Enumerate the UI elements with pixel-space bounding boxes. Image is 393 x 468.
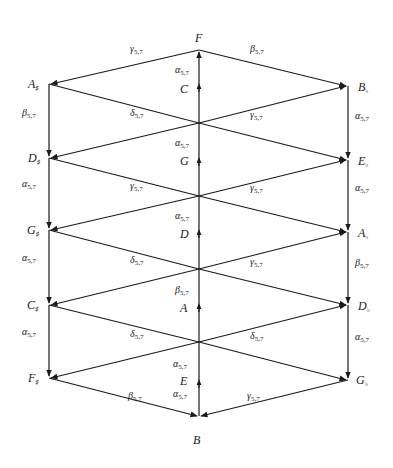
label-alpha-C-F: α5,7 <box>175 64 190 77</box>
label-alpha-Dsharp-Gsharp: α5,7 <box>22 178 37 191</box>
label-delta-Csharp-center4: δ5,7 <box>130 328 144 341</box>
node-A-flat: A♭ <box>357 226 369 241</box>
label-alpha-Csharp-Fsharp: α5,7 <box>22 326 37 339</box>
label-beta-Fsharp-B: β5,7 <box>127 390 142 403</box>
label-beta-Aflat-Dflat: β5,7 <box>354 257 369 270</box>
node-F-sharp: F♯ <box>27 371 39 386</box>
edge-Gsharp-center3 <box>49 230 199 269</box>
label-alpha-D-G: α5,7 <box>175 210 190 223</box>
label-alpha-B-E: α5,7 <box>173 388 188 401</box>
label-alpha-Dflat-Gflat: α5,7 <box>355 331 370 344</box>
label-gamma-F-Asharp: γ5,7 <box>130 43 143 56</box>
node-B-flat: B♭ <box>358 80 369 95</box>
edge-center4-Gflat <box>199 342 346 380</box>
node-C-sharp: C♯ <box>27 298 39 313</box>
label-alpha-Bflat-Eflat: α5,7 <box>355 110 370 123</box>
edge-Dsharp-center2 <box>49 158 199 196</box>
edge-center1-Bflat <box>199 86 346 123</box>
edge-F-Bflat <box>199 50 346 86</box>
label-delta-Gsharp-center3: δ5,7 <box>130 254 144 267</box>
label-gamma-center3-Aflat: γ5,7 <box>250 256 263 269</box>
edge-center1-Eflat <box>199 123 346 160</box>
label-alpha-Gsharp-Csharp: α5,7 <box>22 252 37 265</box>
node-D-sharp: D♯ <box>27 151 41 166</box>
edge-Asharp-center1 <box>49 84 199 123</box>
label-beta-F-Bflat: β5,7 <box>249 43 264 56</box>
label-alpha-G-C: α5,7 <box>175 137 190 150</box>
label-gamma-center2-Eflat: γ5,7 <box>250 182 263 195</box>
node-F: F <box>194 31 203 45</box>
node-E-flat: E♭ <box>357 154 369 169</box>
label-alpha-E-A: α5,7 <box>173 358 188 371</box>
node-D-flat: D♭ <box>357 299 370 314</box>
label-gamma-center1-Bflat: γ5,7 <box>250 109 263 122</box>
edge-center2-Eflat <box>199 160 346 196</box>
transformation-lattice-diagram: F C G D A E B A♯ D♯ G♯ C♯ F♯ B♭ E♭ A♭ D♭… <box>0 0 393 468</box>
node-A-sharp: A♯ <box>27 77 39 92</box>
label-beta-A-D: β5,7 <box>174 284 189 297</box>
node-G-sharp: G♯ <box>27 223 40 238</box>
edge-center3-Dflat <box>199 269 346 305</box>
edge-center4-Dflat <box>199 305 346 342</box>
edge-center2-Aflat <box>199 196 346 232</box>
label-alpha-Eflat-Aflat: α5,7 <box>355 182 370 195</box>
label-delta-Asharp-center1: δ5,7 <box>130 107 144 120</box>
node-C: C <box>180 82 189 96</box>
edge-Gflat-B <box>201 380 348 416</box>
label-delta-center4-Dflat: δ5,7 <box>250 330 264 343</box>
node-G-flat: G♭ <box>356 373 368 388</box>
node-A: A <box>179 301 188 315</box>
node-E: E <box>179 374 188 388</box>
node-D: D <box>179 227 189 241</box>
node-G: G <box>180 154 189 168</box>
label-beta-Asharp-Dsharp: β5,7 <box>21 107 36 120</box>
label-gamma-Gflat-B: γ5,7 <box>247 390 260 403</box>
node-B: B <box>193 433 201 447</box>
edge-Csharp-center4 <box>49 305 199 342</box>
edge-center3-Aflat <box>199 232 346 269</box>
